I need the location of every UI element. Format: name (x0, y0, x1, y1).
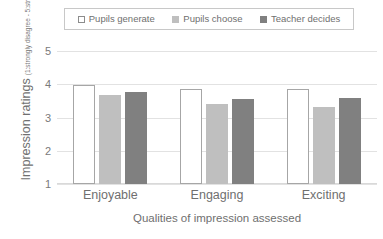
legend-swatch-icon-teacher-decides (260, 16, 267, 23)
bar (339, 98, 361, 184)
y-axis-subtitle: (1:strongly disagree - 5:strongly agree) (24, 0, 31, 75)
y-axis-tick-label: 3 (45, 112, 51, 123)
y-axis-title-group: Impression ratings (1:strongly disagree … (19, 0, 39, 152)
bar-group (270, 51, 377, 184)
gridline (57, 184, 377, 185)
y-axis-title: Impression ratings (19, 78, 33, 180)
chart-legend: Pupils generate Pupils choose Teacher de… (64, 8, 354, 30)
bar-group (57, 51, 164, 184)
bar (99, 95, 121, 184)
bar (313, 107, 335, 184)
legend-swatch-icon-pupils-choose (172, 16, 179, 23)
bar-group (164, 51, 271, 184)
y-axis-tick-label: 5 (45, 46, 51, 57)
x-axis-title: Qualities of impression assessed (57, 212, 377, 224)
bar (287, 89, 309, 184)
bar (206, 104, 228, 184)
legend-label-pupils-choose: Pupils choose (183, 14, 242, 24)
y-axis-tick-label: 1 (45, 179, 51, 190)
bar (180, 89, 202, 184)
legend-label-pupils-generate: Pupils generate (89, 14, 155, 24)
bar (125, 92, 147, 184)
x-axis-tick-label: Exciting (270, 188, 377, 202)
bar-groups (57, 51, 377, 184)
legend-item-teacher-decides: Teacher decides (260, 14, 340, 24)
bar (73, 85, 95, 184)
bar-chart: Pupils generate Pupils choose Teacher de… (0, 0, 383, 239)
y-axis-tick-label: 2 (45, 145, 51, 156)
x-axis-tick-label: Enjoyable (57, 188, 164, 202)
bar (232, 99, 254, 184)
x-axis-tick-label: Engaging (164, 188, 271, 202)
y-axis-tick-label: 4 (45, 79, 51, 90)
plot-area: 54321 (57, 51, 377, 184)
legend-swatch-icon-pupils-generate (78, 16, 85, 23)
x-axis-tick-labels: EnjoyableEngagingExciting (57, 188, 377, 202)
legend-item-pupils-choose: Pupils choose (172, 14, 242, 24)
legend-label-teacher-decides: Teacher decides (271, 14, 340, 24)
legend-item-pupils-generate: Pupils generate (78, 14, 155, 24)
